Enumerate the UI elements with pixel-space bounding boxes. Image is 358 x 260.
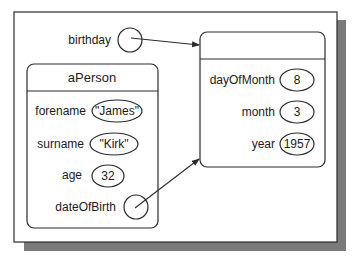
field-label: dateOfBirth bbox=[55, 200, 116, 214]
object-diagram: birthday aPerson forename "James" surnam… bbox=[0, 0, 358, 260]
field-value: 8 bbox=[294, 73, 301, 87]
person-object-title: aPerson bbox=[68, 70, 116, 85]
field-label: age bbox=[62, 168, 82, 182]
field-value: 3 bbox=[294, 105, 301, 119]
date-object[interactable]: dayOfMonth 8 month 3 year 1957 bbox=[200, 32, 325, 167]
field-value: "James" bbox=[95, 104, 139, 118]
field-label: forename bbox=[35, 104, 86, 118]
field-value: 1957 bbox=[284, 137, 311, 151]
field-value: 32 bbox=[101, 169, 115, 183]
field-label: month bbox=[242, 105, 275, 119]
field-label: surname bbox=[37, 137, 84, 151]
field-label: year bbox=[252, 137, 275, 151]
field-value: "Kirk" bbox=[99, 137, 128, 151]
field-label: dayOfMonth bbox=[210, 73, 275, 87]
person-object[interactable]: aPerson forename "James" surname "Kirk" … bbox=[27, 64, 158, 228]
birthday-reference-slot[interactable] bbox=[118, 28, 142, 52]
birthday-label: birthday bbox=[68, 33, 111, 47]
